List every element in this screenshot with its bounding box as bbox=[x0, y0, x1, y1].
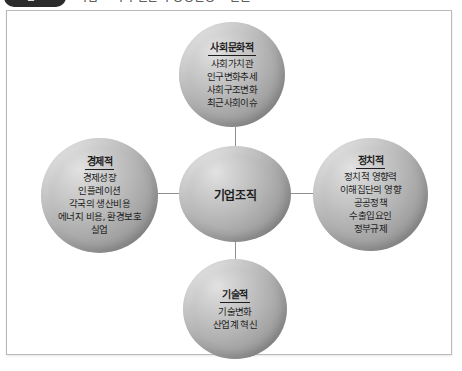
node-sociocultural-item-4: 최근사회이슈 bbox=[207, 96, 257, 109]
node-core-organization-label: 기업조직 bbox=[214, 186, 256, 203]
node-economic-item-5: 실업 bbox=[91, 223, 108, 236]
node-sociocultural-item-1: 사회가치관 bbox=[211, 57, 253, 70]
connector-center-to-bottom bbox=[235, 242, 236, 260]
node-sociocultural-item-2: 인구변화추세 bbox=[207, 70, 257, 83]
node-technological-item-2: 산업계 혁신 bbox=[213, 318, 257, 331]
node-economic-heading: 경제적 bbox=[85, 155, 115, 170]
node-technological-item-1: 기술변화 bbox=[218, 305, 252, 318]
figure-number-badge: 그림 2-1 bbox=[4, 0, 66, 7]
node-technological[interactable]: 기술적 기술변화 산업계 혁신 bbox=[183, 259, 287, 359]
diagram-panel: 사회문화적 사회가치관 인구변화추세 사회구조변화 최근사회이슈 경제적 경제성… bbox=[6, 10, 452, 355]
connector-center-to-right bbox=[291, 193, 314, 194]
node-economic-item-1: 경제성장 bbox=[83, 171, 117, 184]
node-sociocultural-item-3: 사회구조변화 bbox=[207, 83, 257, 96]
node-political-item-5: 정부규제 bbox=[354, 222, 388, 235]
node-sociocultural[interactable]: 사회문화적 사회가치관 인구변화추세 사회구조변화 최근사회이슈 bbox=[179, 22, 285, 127]
connector-center-to-left bbox=[158, 193, 180, 194]
node-economic-item-3: 각국의 생산비용 bbox=[69, 197, 130, 210]
node-core-organization[interactable]: 기업조직 bbox=[179, 146, 291, 242]
node-economic-item-2: 인플레이션 bbox=[78, 184, 120, 197]
connector-center-to-top bbox=[235, 127, 236, 147]
node-sociocultural-heading: 사회문화적 bbox=[208, 41, 255, 56]
node-economic-item-4: 에너지 비용, 환경보호 bbox=[58, 210, 141, 223]
node-political-item-2: 이해집단의 영향 bbox=[340, 183, 401, 196]
node-political-heading: 정치적 bbox=[356, 154, 386, 169]
figure-caption-title: 기업 조직의 일반적 경영환경 요인들 bbox=[76, 0, 251, 7]
node-political-item-3: 공공정책 bbox=[354, 196, 388, 209]
node-political[interactable]: 정치적 정치적 영향력 이해집단의 영향 공공정책 수출입요인 정부규제 bbox=[313, 138, 428, 251]
figure-header: 그림 2-1 기업 조직의 일반적 경영환경 요인들 bbox=[0, 0, 462, 9]
node-political-item-1: 정치적 영향력 bbox=[344, 170, 397, 183]
node-political-item-4: 수출입요인 bbox=[349, 209, 391, 222]
node-technological-heading: 기술적 bbox=[220, 288, 250, 303]
diagram-screenshot: 그림 2-1 기업 조직의 일반적 경영환경 요인들 사회문화적 사회가치관 인… bbox=[0, 0, 462, 371]
node-economic[interactable]: 경제적 경제성장 인플레이션 각국의 생산비용 에너지 비용, 환경보호 실업 bbox=[41, 138, 158, 253]
